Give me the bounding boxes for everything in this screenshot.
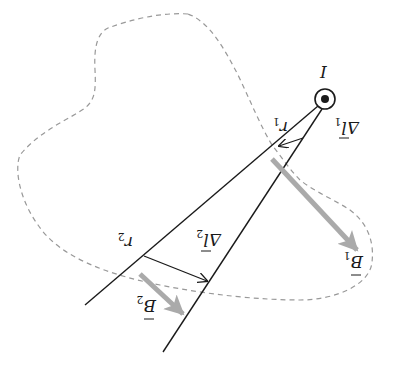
svg-text:B1: B1 xyxy=(344,249,365,272)
amperian-loop xyxy=(18,14,373,300)
svg-text:Δl2: Δl2 xyxy=(196,227,222,250)
svg-text:r1: r1 xyxy=(273,115,288,138)
radial-line-inner xyxy=(163,109,322,352)
svg-text:B2: B2 xyxy=(137,293,158,316)
current-out-of-page-icon xyxy=(315,89,335,109)
dl2-arrow xyxy=(144,256,207,281)
svg-text:Δl1: Δl1 xyxy=(334,115,360,138)
dl2-label: Δl2 xyxy=(196,227,222,251)
b2-label: B2 xyxy=(137,293,158,319)
r2-label: r2 xyxy=(118,230,133,253)
ampere-law-diagram: I Δl1 r1 B1 Δl2 r2 B2 xyxy=(0,0,397,388)
svg-text:r2: r2 xyxy=(118,230,133,253)
current-label: I xyxy=(319,62,327,82)
r1-label: r1 xyxy=(273,115,288,138)
b1-field-arrow xyxy=(272,159,357,250)
dl1-label: Δl1 xyxy=(334,115,360,138)
b1-label: B1 xyxy=(344,249,365,275)
